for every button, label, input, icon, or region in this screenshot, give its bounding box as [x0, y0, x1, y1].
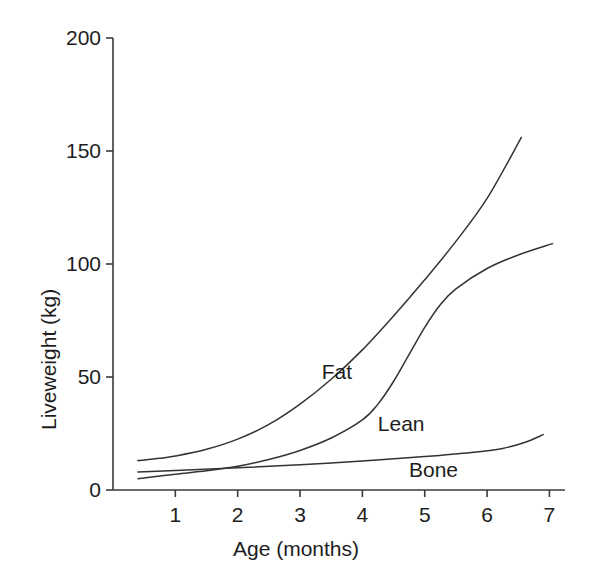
curve-label-lean: Lean [378, 413, 425, 434]
curve-label-fat: Fat [322, 361, 352, 382]
x-tick-label: 3 [280, 504, 320, 525]
y-tick-label: 50 [78, 366, 101, 387]
y-axis-title: Liveweight (kg) [38, 289, 59, 430]
x-tick-label: 5 [405, 504, 445, 525]
series-curves [138, 137, 553, 478]
x-tick-label: 1 [155, 504, 195, 525]
y-tick-label: 150 [66, 140, 101, 161]
x-tick-label: 2 [218, 504, 258, 525]
curve-label-bone: Bone [409, 459, 458, 480]
y-tick-label: 0 [89, 479, 101, 500]
x-tick-label: 4 [342, 504, 382, 525]
curve-bone [138, 435, 543, 472]
chart-figure: 050100150200 1234567 FatLeanBone Livewei… [0, 0, 592, 578]
curve-fat [138, 137, 521, 460]
x-tick-label: 7 [529, 504, 569, 525]
y-tick-label: 100 [66, 253, 101, 274]
y-tick-marks [106, 38, 113, 490]
x-axis-title: Age (months) [0, 538, 592, 559]
y-tick-label: 200 [66, 27, 101, 48]
x-tick-label: 6 [467, 504, 507, 525]
x-tick-marks [175, 490, 549, 497]
